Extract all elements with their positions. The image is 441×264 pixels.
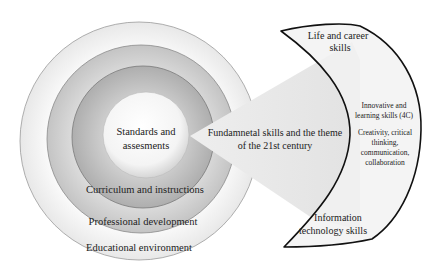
label-4c-line3: communication,	[361, 148, 410, 157]
label-standards-line1: Standards and	[116, 126, 176, 137]
label-4c-line4: collaboration	[365, 158, 405, 167]
label-professional-development: Professional development	[89, 216, 198, 227]
label-4c-line1: Creativity, critical	[358, 128, 412, 137]
label-wedge-line1: Fundamnetal skills and the theme	[208, 127, 343, 138]
label-it-skills-line2: technology skills	[299, 225, 367, 236]
education-framework-diagram: Educational environment Professional dev…	[0, 0, 441, 264]
label-innovative-line1: Innovative and	[362, 101, 407, 110]
label-life-career-line1: Life and career	[308, 30, 369, 41]
label-standards-line2: assesments	[123, 140, 170, 151]
label-it-skills-line1: Information	[314, 212, 362, 223]
label-innovative-line2: learning skills (4C)	[355, 111, 413, 120]
label-curriculum: Curriculum and instructions	[86, 184, 204, 195]
label-life-career-line2: skills	[329, 42, 350, 53]
label-4c-line2: thinking,	[372, 138, 399, 147]
label-wedge-line2: of the 21st century	[238, 140, 313, 151]
label-educational-environment: Educational environment	[86, 242, 192, 253]
